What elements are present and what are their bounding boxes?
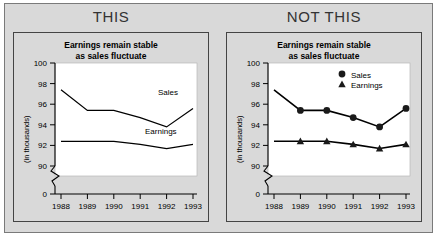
panel-this: Earnings remain stable as sales fluctuat… bbox=[13, 32, 209, 222]
x-tick-label: 1992 bbox=[158, 202, 176, 211]
series-label-sales-left: Sales bbox=[158, 88, 178, 97]
y-axis-title-left: (in thousands) bbox=[22, 115, 31, 163]
x-ticks-right bbox=[274, 194, 406, 199]
panel-heading-not-this: NOT THIS bbox=[226, 8, 422, 25]
y-tick-label: 96 bbox=[251, 100, 260, 109]
y-tick-label: 98 bbox=[251, 80, 260, 89]
y-tick-label: 98 bbox=[38, 80, 47, 89]
y-tick-label: 90 bbox=[251, 162, 260, 171]
data-point-marker bbox=[350, 114, 357, 121]
data-point-marker bbox=[403, 105, 410, 112]
y-tick-label: 96 bbox=[38, 100, 47, 109]
legend-label-earnings: Earnings bbox=[351, 81, 383, 90]
chart-svg-left: 100 98 96 94 92 90 0 (in thousands) bbox=[14, 33, 208, 221]
panel-not-this: Earnings remain stable as sales fluctuat… bbox=[226, 32, 422, 222]
y-tick-label: 100 bbox=[247, 59, 261, 68]
plot-background-right bbox=[268, 63, 410, 176]
x-tick-label: 1991 bbox=[131, 202, 149, 211]
plot-area-left: 100 98 96 94 92 90 0 (in thousands) bbox=[14, 33, 208, 221]
plot-area-right: 100 98 96 94 92 90 0 (in thousands) 1988 bbox=[227, 33, 421, 221]
x-tick-label: 1988 bbox=[265, 202, 283, 211]
data-point-marker bbox=[297, 107, 304, 114]
chart-svg-right: 100 98 96 94 92 90 0 (in thousands) 1988 bbox=[227, 33, 421, 221]
x-tick-label: 1988 bbox=[52, 202, 70, 211]
x-tick-label: 1989 bbox=[292, 202, 310, 211]
y-tick-label: 94 bbox=[251, 121, 260, 130]
y-axis-title-right: (in thousands) bbox=[235, 115, 244, 163]
series-label-earnings-left: Earnings bbox=[145, 127, 177, 136]
panel-heading-this: THIS bbox=[13, 8, 209, 25]
x-tick-label: 1993 bbox=[397, 202, 415, 211]
y-tick-label: 92 bbox=[251, 141, 260, 150]
x-tick-label: 1992 bbox=[371, 202, 389, 211]
x-tick-label: 1990 bbox=[105, 202, 123, 211]
x-tick-label: 1989 bbox=[79, 202, 97, 211]
plot-background-left bbox=[55, 63, 197, 176]
y-tick-label: 0 bbox=[43, 190, 48, 199]
figure-root: THIS NOT THIS Earnings remain stable as … bbox=[0, 0, 437, 242]
data-point-marker bbox=[323, 107, 330, 114]
y-tick-label: 90 bbox=[38, 162, 47, 171]
legend-marker-sales-icon bbox=[339, 71, 346, 78]
y-ticks-left bbox=[50, 63, 55, 194]
y-tick-label: 92 bbox=[38, 141, 47, 150]
y-tick-label: 0 bbox=[256, 190, 261, 199]
x-tick-label: 1991 bbox=[344, 202, 362, 211]
x-tick-label: 1993 bbox=[184, 202, 202, 211]
x-ticks-left bbox=[61, 194, 193, 199]
data-point-marker bbox=[376, 124, 383, 131]
y-tick-label: 94 bbox=[38, 121, 47, 130]
x-tick-label: 1990 bbox=[318, 202, 336, 211]
legend-label-sales: Sales bbox=[351, 71, 371, 80]
y-tick-label: 100 bbox=[34, 59, 48, 68]
y-ticks-right bbox=[263, 63, 268, 194]
